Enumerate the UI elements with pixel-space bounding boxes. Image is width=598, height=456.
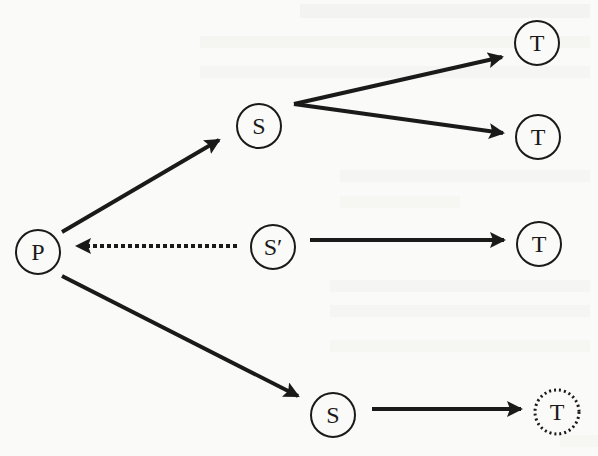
node-label: T — [532, 231, 547, 257]
edges — [62, 57, 521, 409]
edge-p-to-s-bottom — [62, 276, 298, 396]
node-t1: T — [515, 21, 559, 65]
node-label: P — [31, 239, 44, 265]
node-label: T — [550, 399, 565, 425]
node-label: T — [530, 30, 545, 56]
edge-s-top-to-t2 — [294, 104, 503, 133]
node-t3: T — [517, 222, 561, 266]
edge-p-to-s-top — [62, 140, 219, 232]
node-s-bottom: S — [311, 393, 355, 437]
node-label: S — [252, 113, 265, 139]
edge-s-top-to-t1 — [294, 57, 502, 104]
process-diagram: P S S′ S T T T T — [0, 0, 598, 456]
node-label: S′ — [264, 234, 283, 260]
node-t2: T — [516, 115, 560, 159]
node-p: P — [16, 230, 60, 274]
node-s-top: S — [237, 104, 281, 148]
node-t4-dotted: T — [535, 390, 579, 434]
node-label: T — [531, 124, 546, 150]
node-s-prime: S′ — [251, 225, 295, 269]
node-label: S — [326, 402, 339, 428]
